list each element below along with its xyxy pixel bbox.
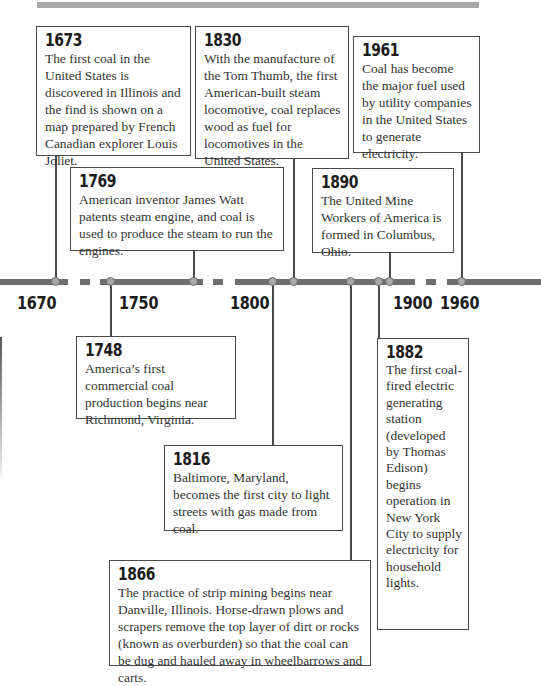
event-text: The practice of strip mining begins near… bbox=[118, 584, 364, 686]
event-year: 1890 bbox=[321, 173, 424, 192]
event-year: 1673 bbox=[45, 31, 159, 50]
timeline-dash bbox=[213, 279, 223, 285]
timeline-node-1890 bbox=[385, 277, 394, 286]
event-text: America’s first commercial coal producti… bbox=[85, 360, 229, 428]
axis-label-1800: 1800 bbox=[230, 293, 269, 313]
timeline-segment bbox=[100, 279, 203, 285]
event-year: 1830 bbox=[204, 31, 317, 50]
event-text: Coal has become the major fuel used by u… bbox=[362, 60, 473, 162]
event-box-1816: 1816 Baltimore, Maryland, becomes the fi… bbox=[164, 445, 343, 531]
event-box-1866: 1866 The practice of strip mining begins… bbox=[109, 560, 371, 666]
event-text: American inventor James Watt patents ste… bbox=[79, 191, 277, 259]
timeline-node-1673 bbox=[51, 277, 60, 286]
connector-1748 bbox=[110, 284, 112, 337]
timeline-node-1830 bbox=[289, 277, 298, 286]
timeline-node-1769 bbox=[189, 277, 198, 286]
connector-1961 bbox=[461, 152, 463, 279]
event-year: 1866 bbox=[118, 565, 320, 584]
connector-1882 bbox=[378, 284, 380, 339]
event-box-1769: 1769 American inventor James Watt patent… bbox=[70, 167, 284, 251]
event-text: Baltimore, Maryland, becomes the first c… bbox=[173, 469, 336, 537]
event-box-1961: 1961 Coal has become the major fuel used… bbox=[353, 36, 480, 153]
connector-1830 bbox=[293, 158, 295, 279]
connector-1673 bbox=[55, 155, 57, 279]
timeline-node-1816 bbox=[268, 277, 277, 286]
event-text: The first coal-fired electric generating… bbox=[386, 362, 462, 592]
event-year: 1816 bbox=[173, 450, 307, 469]
event-year: 1769 bbox=[79, 172, 241, 191]
event-year: 1882 bbox=[386, 343, 448, 362]
axis-label-1670: 1670 bbox=[17, 293, 56, 313]
event-box-1748: 1748 America’s first commercial coal pro… bbox=[76, 336, 236, 419]
event-text: The United Mine Workers of America is fo… bbox=[321, 192, 447, 260]
event-year: 1748 bbox=[85, 341, 203, 360]
timeline-dash bbox=[80, 279, 90, 285]
axis-label-1750: 1750 bbox=[119, 293, 158, 313]
event-year: 1961 bbox=[362, 41, 453, 60]
top-decorative-bar bbox=[37, 2, 479, 8]
timeline-node-1961 bbox=[457, 277, 466, 286]
event-box-1890: 1890 The United Mine Workers of America … bbox=[312, 168, 454, 253]
event-box-1882: 1882 The first coal-fired electric gener… bbox=[377, 338, 469, 630]
page-edge-shadow bbox=[0, 337, 2, 477]
connector-1816 bbox=[272, 284, 274, 446]
event-box-1673: 1673 The first coal in the United States… bbox=[36, 26, 191, 156]
connector-1866 bbox=[350, 284, 352, 561]
event-text: With the manufacture of the Tom Thumb, t… bbox=[204, 50, 342, 169]
axis-label-1960: 1960 bbox=[440, 293, 479, 313]
event-box-1830: 1830 With the manufacture of the Tom Thu… bbox=[195, 26, 349, 159]
event-text: The first coal in the United States is d… bbox=[45, 50, 184, 169]
axis-label-1900: 1900 bbox=[393, 293, 432, 313]
timeline-dash bbox=[426, 279, 436, 285]
timeline-node-1866 bbox=[346, 277, 355, 286]
timeline-node-1748 bbox=[106, 277, 115, 286]
timeline-node-1882 bbox=[374, 277, 383, 286]
